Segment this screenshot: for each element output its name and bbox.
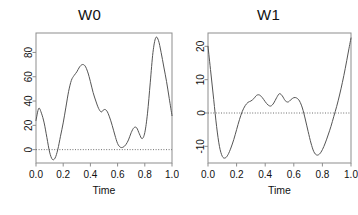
x-tick-label: 0.0 bbox=[201, 169, 215, 180]
x-axis-title: Time bbox=[93, 184, 116, 196]
chart-panel-w0: W0 0.00.20.40.60.81.0020406080Time bbox=[0, 0, 179, 215]
x-axis-title: Time bbox=[268, 184, 291, 196]
plot-area-w0: 0.00.20.40.60.81.0020406080Time bbox=[0, 0, 179, 215]
y-tick-label: 40 bbox=[24, 95, 35, 107]
x-tick-label: 0.2 bbox=[56, 169, 70, 180]
x-tick-label: 0.6 bbox=[287, 169, 301, 180]
plot-frame bbox=[36, 33, 172, 163]
x-tick-label: 0.0 bbox=[29, 169, 43, 180]
y-tick-label: 20 bbox=[196, 40, 207, 52]
data-series-line bbox=[36, 37, 172, 160]
x-tick-label: 0.4 bbox=[83, 169, 97, 180]
x-tick-label: 0.8 bbox=[138, 169, 152, 180]
data-series-line bbox=[208, 38, 351, 158]
x-tick-label: 0.4 bbox=[258, 169, 272, 180]
x-tick-label: 1.0 bbox=[344, 169, 358, 180]
figure-root: W0 0.00.20.40.60.81.0020406080Time W1 0.… bbox=[0, 0, 358, 215]
y-tick-label: 60 bbox=[24, 71, 35, 83]
chart-panel-w1: W1 0.00.20.40.60.81.020100-10Time bbox=[179, 0, 358, 215]
x-tick-label: 1.0 bbox=[165, 169, 179, 180]
x-tick-label: 0.6 bbox=[111, 169, 125, 180]
y-tick-label: 10 bbox=[196, 74, 207, 86]
plot-area-w1: 0.00.20.40.60.81.020100-10Time bbox=[179, 0, 358, 215]
y-tick-label: 0 bbox=[196, 110, 207, 116]
y-tick-label: 80 bbox=[24, 46, 35, 58]
x-tick-label: 0.8 bbox=[315, 169, 329, 180]
y-tick-label: 0 bbox=[24, 146, 35, 152]
x-tick-label: 0.2 bbox=[230, 169, 244, 180]
y-tick-label: 20 bbox=[24, 119, 35, 131]
y-tick-label: -10 bbox=[196, 139, 207, 154]
plot-frame bbox=[208, 33, 351, 163]
